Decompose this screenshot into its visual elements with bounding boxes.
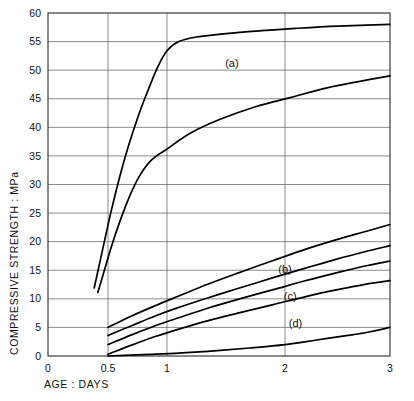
x-axis-tick-labels: 00.5123 bbox=[45, 362, 393, 374]
y-axis-tick-labels: 051015202530354045505560 bbox=[29, 7, 41, 362]
y-tick-label: 30 bbox=[29, 178, 41, 190]
y-tick-label: 10 bbox=[29, 292, 41, 304]
y-tick-label: 25 bbox=[29, 207, 41, 219]
y-tick-label: 5 bbox=[35, 321, 41, 333]
x-tick-label: 0.5 bbox=[101, 362, 116, 374]
annotation-a: (a) bbox=[225, 57, 238, 69]
x-tick-label: 0 bbox=[45, 362, 51, 374]
axis-titles: AGE : DAYS COMPRESSIVE STRENGTH : MPa bbox=[8, 171, 109, 390]
y-tick-label: 40 bbox=[29, 121, 41, 133]
y-tick-label: 20 bbox=[29, 235, 41, 247]
x-tick-label: 3 bbox=[387, 362, 393, 374]
x-axis-title: AGE : DAYS bbox=[44, 378, 109, 390]
y-tick-label: 60 bbox=[29, 7, 41, 19]
y-axis-title: COMPRESSIVE STRENGTH : MPa bbox=[8, 171, 20, 355]
y-tick-label: 45 bbox=[29, 92, 41, 104]
y-tick-label: 15 bbox=[29, 264, 41, 276]
annotation-d: (d) bbox=[289, 317, 302, 329]
x-tick-label: 2 bbox=[282, 362, 288, 374]
y-tick-label: 0 bbox=[35, 350, 41, 362]
annotation-c: (c) bbox=[284, 290, 297, 302]
y-tick-label: 35 bbox=[29, 150, 41, 162]
curve-c bbox=[108, 261, 390, 344]
chart-container: 051015202530354045505560 00.5123 (a)(b)(… bbox=[0, 0, 414, 401]
compressive-strength-chart: 051015202530354045505560 00.5123 (a)(b)(… bbox=[0, 0, 414, 401]
curve-d bbox=[108, 327, 390, 356]
curve-b-lower bbox=[108, 246, 390, 336]
x-tick-label: 1 bbox=[164, 362, 170, 374]
data-curves bbox=[94, 24, 390, 356]
curve-b-upper bbox=[108, 225, 390, 328]
annotation-b: (b) bbox=[278, 263, 291, 275]
y-tick-label: 55 bbox=[29, 35, 41, 47]
y-tick-label: 50 bbox=[29, 64, 41, 76]
